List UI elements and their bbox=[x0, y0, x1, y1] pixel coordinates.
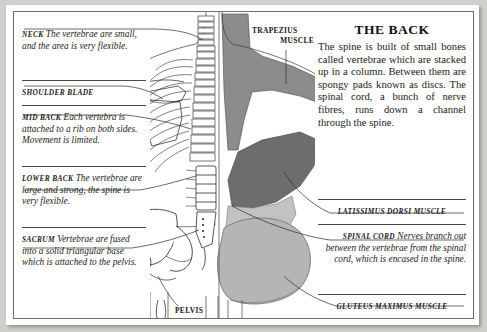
page-title: THE BACK bbox=[318, 22, 466, 38]
label-entry-mid-back: MID BACK Each vertebra is attached to a … bbox=[22, 112, 146, 147]
center-label-trapezius: TRAPEZIUS MUSCLE bbox=[252, 26, 314, 45]
label-heading-mid-back: MID BACK bbox=[22, 113, 61, 122]
label-heading-lower-back: LOWER BACK bbox=[22, 174, 73, 183]
label-heading-shoulder-blade: SHOULDER BLADE bbox=[22, 88, 94, 97]
divider-4 bbox=[22, 227, 146, 228]
label-entry-sacrum: SACRUM Vertebrae are fused into a solid … bbox=[22, 234, 146, 269]
divider-5 bbox=[318, 199, 466, 200]
label-entry-lower-back: LOWER BACK The vertebrae are large and s… bbox=[22, 173, 146, 208]
label-entry-latissimus-dorsi: LATISSIMUS DORSI MUSCLE bbox=[318, 206, 466, 218]
label-heading-spinal-cord: SPINAL CORD bbox=[343, 232, 395, 241]
center-label-pelvis-line1: PELVIS bbox=[175, 306, 225, 316]
intro-paragraph: The spine is built of small bones called… bbox=[318, 41, 466, 129]
center-label-trapezius-line2: MUSCLE bbox=[252, 36, 314, 46]
center-label-trapezius-line1: TRAPEZIUS bbox=[252, 26, 314, 36]
divider-2 bbox=[22, 105, 146, 106]
label-entry-shoulder-blade: SHOULDER BLADE bbox=[22, 87, 146, 99]
label-heading-sacrum: SACRUM bbox=[22, 235, 55, 244]
label-entry-gluteus-maximus: GLUTEUS MAXIMUS MUSCLE bbox=[318, 301, 466, 313]
label-entry-spinal-cord: SPINAL CORD Nerves branch out between th… bbox=[318, 231, 466, 266]
label-heading-latissimus-dorsi: LATISSIMUS DORSI MUSCLE bbox=[338, 207, 446, 216]
illustration-page: NECK The vertebrae are small, and the ar… bbox=[0, 0, 487, 332]
divider-3 bbox=[22, 166, 146, 167]
divider-7 bbox=[318, 294, 466, 295]
divider-6 bbox=[318, 224, 466, 225]
label-entry-neck: NECK The vertebrae are small, and the ar… bbox=[22, 29, 146, 52]
center-label-pelvis: PELVIS bbox=[175, 306, 225, 316]
title-block: THE BACK The spine is built of small bon… bbox=[318, 22, 466, 129]
label-heading-neck: NECK bbox=[22, 30, 44, 39]
label-heading-gluteus-maximus: GLUTEUS MAXIMUS MUSCLE bbox=[336, 302, 447, 311]
divider-1 bbox=[22, 80, 146, 81]
